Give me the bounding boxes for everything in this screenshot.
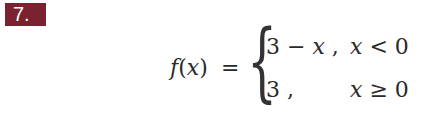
case-1-condition: x < 0: [350, 34, 409, 59]
function-name: f: [170, 55, 178, 80]
case-1-variable: x: [312, 34, 324, 59]
case-1-cond-value: 0: [395, 34, 409, 59]
case-2-expression: 3 ,: [266, 77, 294, 102]
case-1-cond-variable: x: [350, 34, 362, 59]
case-1-operator: −: [280, 34, 312, 59]
case-2-cond-relation: ≥: [362, 77, 394, 102]
case-1-expression: 3 − x ,: [266, 34, 339, 59]
case-1-number: 3: [266, 34, 280, 59]
function-variable: x: [187, 55, 199, 80]
case-2-comma: ,: [280, 77, 294, 102]
case-2-cond-variable: x: [350, 77, 362, 102]
open-paren: (: [178, 55, 187, 80]
case-2-number: 3: [266, 77, 280, 102]
case-1-comma: ,: [325, 34, 339, 59]
problem-number: 7.: [13, 3, 30, 25]
case-2-cond-value: 0: [395, 77, 409, 102]
case-1-cond-relation: <: [362, 34, 394, 59]
close-paren: ): [199, 55, 208, 80]
problem-number-badge: 7.: [5, 3, 46, 26]
case-2-condition: x ≥ 0: [350, 77, 409, 102]
equals-sign: =: [221, 55, 239, 80]
function-lhs: f(x): [170, 55, 208, 80]
